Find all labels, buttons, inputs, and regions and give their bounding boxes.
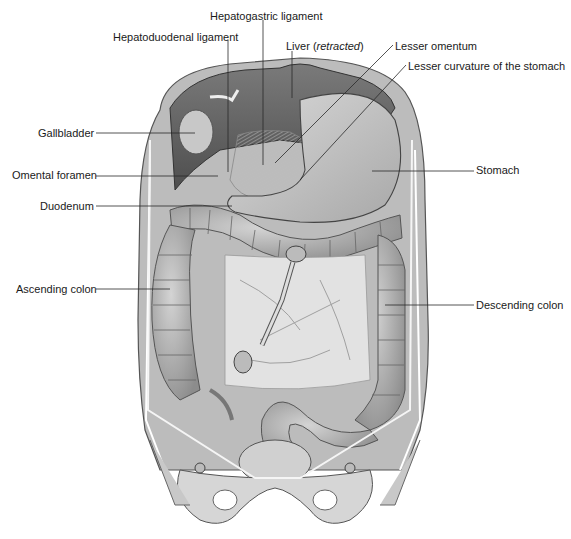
label-liver-suffix: ) xyxy=(360,40,364,52)
label-ascending-colon: Ascending colon xyxy=(16,283,97,296)
label-liver: Liver (retracted) xyxy=(286,40,364,53)
label-lesser-omentum: Lesser omentum xyxy=(395,40,477,53)
label-stomach: Stomach xyxy=(476,164,519,177)
anatomy-figure: Hepatogastric ligament Hepatoduodenal li… xyxy=(0,0,571,539)
label-liver-text: Liver ( xyxy=(286,40,317,52)
label-hepatoduodenal-ligament: Hepatoduodenal ligament xyxy=(113,31,238,44)
label-descending-colon: Descending colon xyxy=(476,299,563,312)
label-gallbladder: Gallbladder xyxy=(38,127,94,140)
label-lesser-curvature: Lesser curvature of the stomach xyxy=(408,60,565,73)
label-hepatogastric-ligament: Hepatogastric ligament xyxy=(210,10,323,23)
label-omental-foramen: Omental foramen xyxy=(12,169,97,182)
label-liver-italic: retracted xyxy=(317,40,360,52)
abdominal-illustration xyxy=(0,0,571,539)
label-duodenum: Duodenum xyxy=(40,200,94,213)
gallbladder xyxy=(179,110,213,154)
